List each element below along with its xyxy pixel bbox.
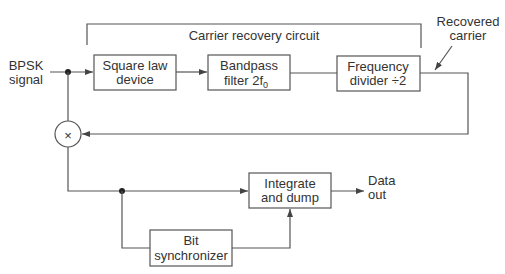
integrate-label-line1: Integrate bbox=[264, 176, 315, 191]
bandpass-label-subscript: 0 bbox=[263, 80, 268, 90]
data-out-label-line1: Data bbox=[368, 173, 396, 188]
bandpass-label-line1: Bandpass bbox=[220, 58, 278, 73]
square-law-label-line2: device bbox=[116, 72, 154, 87]
multiplier-symbol: × bbox=[64, 128, 72, 143]
bit-sync-to-integrate-wire bbox=[232, 209, 290, 248]
bit-sync-label-line2: synchronizer bbox=[154, 248, 228, 263]
integrate-label-line2: and dump bbox=[261, 190, 319, 205]
bit-sync-label-line1: Bit bbox=[183, 233, 199, 248]
multiplier-to-integrate-wire bbox=[68, 147, 248, 191]
square-law-label-line1: Square law bbox=[102, 58, 168, 73]
recovered-carrier-label-line2: carrier bbox=[450, 28, 488, 43]
bandpass-label-line2: filter 2f0 bbox=[224, 73, 268, 90]
recovered-carrier-pointer bbox=[435, 46, 452, 70]
divider-label-line2: divider ÷2 bbox=[350, 73, 406, 88]
recovered-carrier-label-line1: Recovered bbox=[437, 14, 500, 29]
junction-to-bit-sync-wire bbox=[122, 191, 150, 248]
carrier-recovery-label: Carrier recovery circuit bbox=[189, 28, 320, 43]
divider-label-line1: Frequency bbox=[347, 59, 409, 74]
input-label-line2: signal bbox=[9, 72, 43, 87]
bandpass-label-main: filter 2f bbox=[224, 73, 263, 88]
data-out-label-line2: out bbox=[368, 187, 386, 202]
bpsk-receiver-diagram: Carrier recovery circuit BPSK signal Squ… bbox=[0, 0, 505, 274]
input-label-line1: BPSK bbox=[9, 58, 44, 73]
